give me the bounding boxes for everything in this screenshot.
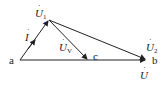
u-label: U <box>140 69 149 81</box>
phasor-diagram: · I · U 1 · U V · U 2 · U a c b <box>0 0 167 87</box>
point-a-label: a <box>9 54 14 66</box>
point-c-label: c <box>93 50 98 62</box>
current-arrow <box>28 40 35 49</box>
u1-subscript: 1 <box>43 13 47 21</box>
point-b-label: b <box>152 54 158 66</box>
uv-subscript: V <box>67 47 72 55</box>
